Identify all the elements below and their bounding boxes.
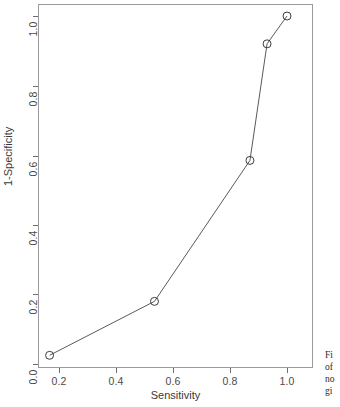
roc-curve-line	[50, 16, 287, 355]
x-tick-0.4	[116, 368, 117, 373]
x-tick-1.0	[287, 368, 288, 373]
x-tick-0.2	[59, 368, 60, 373]
roc-figure: 1.0 0.8 0.6 0.4 0.2 0.0 0.2 0.4 0.6 0.8 …	[0, 0, 340, 407]
x-tick-0.6	[173, 368, 174, 373]
roc-curve-markers	[46, 12, 291, 359]
x-tick-label-0.6: 0.6	[158, 375, 188, 387]
x-tick-0.8	[230, 368, 231, 373]
caption-line-1: Fi	[325, 349, 340, 361]
figure-caption-clipped: Fi of no gi	[325, 349, 340, 397]
x-axis-title: Sensitivity	[38, 389, 313, 401]
caption-line-3: no	[325, 373, 340, 385]
x-tick-label-0.8: 0.8	[215, 375, 245, 387]
x-tick-label-1.0: 1.0	[272, 375, 302, 387]
x-tick-label-0.2: 0.2	[44, 375, 74, 387]
y-axis-title: 1-Specificity	[2, 127, 14, 186]
caption-line-4: gi	[325, 385, 340, 397]
caption-line-2: of	[325, 361, 340, 373]
plot-data-layer	[38, 4, 313, 368]
x-tick-label-0.4: 0.4	[101, 375, 131, 387]
